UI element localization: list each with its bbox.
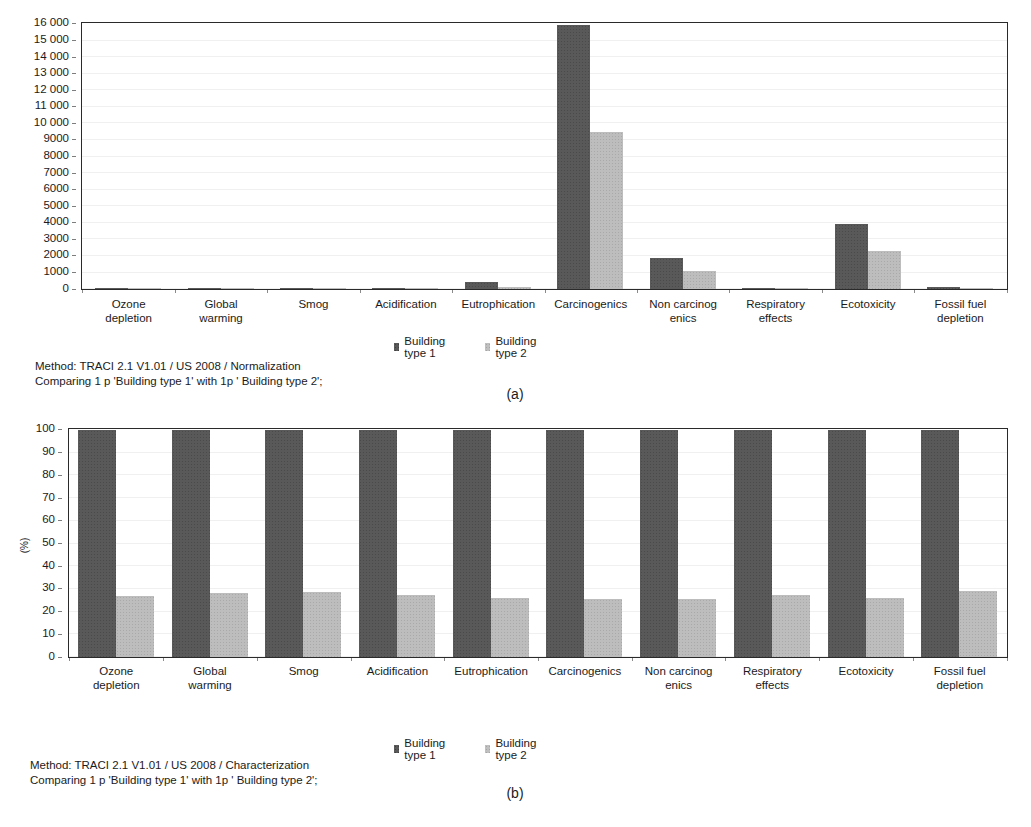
bar: [280, 288, 313, 289]
y-axis-tick-mark: [72, 255, 76, 256]
bar: [465, 282, 498, 289]
panel-a-legend: Building type 1 Building type 2: [394, 335, 546, 359]
y-axis-tick-mark: [58, 588, 62, 589]
y-axis-tick-label: 100: [36, 424, 55, 436]
y-axis-tick-label: 6000: [43, 183, 69, 195]
bar: [172, 430, 210, 657]
y-axis-tick-label: 30: [42, 583, 55, 595]
panel-a-method-caption: Method: TRACI 2.1 V1.01 / US 2008 / Norm…: [35, 359, 323, 388]
bar: [927, 287, 960, 289]
x-axis-tick-mark: [452, 290, 453, 293]
x-axis-tick-mark: [538, 658, 539, 661]
y-axis-tick-label: 50: [42, 537, 55, 549]
bar: [772, 595, 810, 657]
y-axis-tick-mark: [58, 634, 62, 635]
y-axis-tick-label: 0: [49, 651, 55, 663]
bar: [491, 598, 529, 657]
y-axis-tick-label: 2000: [43, 250, 69, 262]
legend-label-building-type-1: Building type 1: [404, 335, 454, 359]
x-axis-tick-mark: [351, 658, 352, 661]
x-axis-tick-mark: [69, 658, 70, 661]
x-axis-category-label: Acidification: [351, 665, 445, 679]
x-axis-tick-mark: [637, 290, 638, 293]
bar: [78, 430, 116, 657]
y-axis-tick-mark: [72, 222, 76, 223]
y-axis-tick-label: 7000: [43, 167, 69, 179]
bar: [221, 288, 254, 289]
y-axis-tick-label: 15 000: [34, 34, 69, 46]
bar: [683, 271, 716, 289]
bar: [498, 287, 531, 289]
bar: [590, 132, 623, 289]
y-axis-tick-mark: [72, 23, 76, 24]
x-axis-tick-mark: [444, 658, 445, 661]
y-axis-tick-label: 10 000: [34, 117, 69, 129]
bar: [405, 288, 438, 289]
x-axis-category-label: Fossil fuel depletion: [913, 665, 1007, 692]
x-axis-tick-mark: [257, 658, 258, 661]
y-axis-tick-label: 16 000: [34, 18, 69, 30]
legend-item-building-type-2: Building type 2: [485, 737, 546, 761]
y-axis-tick-mark: [58, 498, 62, 499]
x-axis-category-label: Ozone depletion: [69, 665, 163, 692]
y-axis-tick-label: 10: [42, 628, 55, 640]
panel-b-y-axis-title: (%): [16, 500, 34, 590]
bar: [650, 258, 683, 289]
bar: [835, 224, 868, 289]
bar: [116, 596, 154, 657]
y-axis-tick-mark: [72, 206, 76, 207]
x-axis-category-label: Global warming: [163, 665, 257, 692]
bar: [265, 430, 303, 657]
x-axis-category-label: Global warming: [175, 298, 267, 325]
legend-item-building-type-1: Building type 1: [394, 737, 455, 761]
legend-item-building-type-2: Building type 2: [485, 335, 546, 359]
x-axis-category-label: Acidification: [360, 298, 452, 312]
panel-a-plot-frame: [81, 22, 1008, 290]
y-axis-tick-label: 8000: [43, 150, 69, 162]
bar: [742, 288, 775, 289]
y-axis-tick-mark: [58, 566, 62, 567]
x-axis-category-label: Carcinogenics: [545, 298, 637, 312]
y-axis-tick-mark: [72, 123, 76, 124]
bar: [584, 599, 622, 657]
x-axis-category-label: Fossil fuel depletion: [914, 298, 1006, 325]
x-axis-category-label: Respiratory effects: [725, 665, 819, 692]
bar: [828, 430, 866, 657]
panel-a-bars: [82, 23, 1007, 289]
y-axis-tick-label: 9000: [43, 134, 69, 146]
y-axis-tick-mark: [72, 239, 76, 240]
x-axis-category-label: Ecotoxicity: [822, 298, 914, 312]
legend-swatch-icon-building-type-1: [394, 745, 399, 753]
panel-b-method-caption: Method: TRACI 2.1 V1.01 / US 2008 / Char…: [30, 758, 318, 787]
panel-a-caption-line-1: Method: TRACI 2.1 V1.01 / US 2008 / Norm…: [35, 359, 323, 374]
bar: [359, 430, 397, 657]
x-axis-tick-mark: [545, 290, 546, 293]
y-axis-tick-mark: [58, 429, 62, 430]
panel-b-bars: [69, 429, 1007, 657]
legend-item-building-type-1: Building type 1: [394, 335, 455, 359]
y-axis-tick-mark: [72, 57, 76, 58]
legend-swatch-icon-building-type-2: [485, 745, 490, 753]
panel-b-caption-line-2: Comparing 1 p 'Building type 1' with 1p …: [30, 773, 318, 788]
x-axis-category-label: Smog: [257, 665, 351, 679]
bar: [303, 592, 341, 657]
y-axis-tick-label: 11 000: [35, 101, 69, 113]
x-axis-category-label: Eutrophication: [444, 665, 538, 679]
y-axis-tick-mark: [58, 543, 62, 544]
panel-a-x-axis-ticks: [81, 290, 1008, 294]
y-axis-tick-mark: [72, 156, 76, 157]
x-axis-tick-mark: [725, 658, 726, 661]
bar: [866, 598, 904, 657]
y-axis-tick-mark: [72, 139, 76, 140]
bar: [313, 288, 346, 289]
x-axis-category-label: Non carcinog enics: [632, 665, 726, 692]
x-axis-category-label: Ecotoxicity: [819, 665, 913, 679]
x-axis-tick-mark: [175, 290, 176, 293]
panel-b-caption-line-1: Method: TRACI 2.1 V1.01 / US 2008 / Char…: [30, 758, 318, 773]
bar: [188, 288, 221, 289]
x-axis-category-label: Respiratory effects: [729, 298, 821, 325]
x-axis-tick-mark: [267, 290, 268, 293]
y-axis-tick-label: 5000: [43, 200, 69, 212]
panel-b-plot-frame: [68, 428, 1008, 658]
y-axis-tick-mark: [58, 611, 62, 612]
